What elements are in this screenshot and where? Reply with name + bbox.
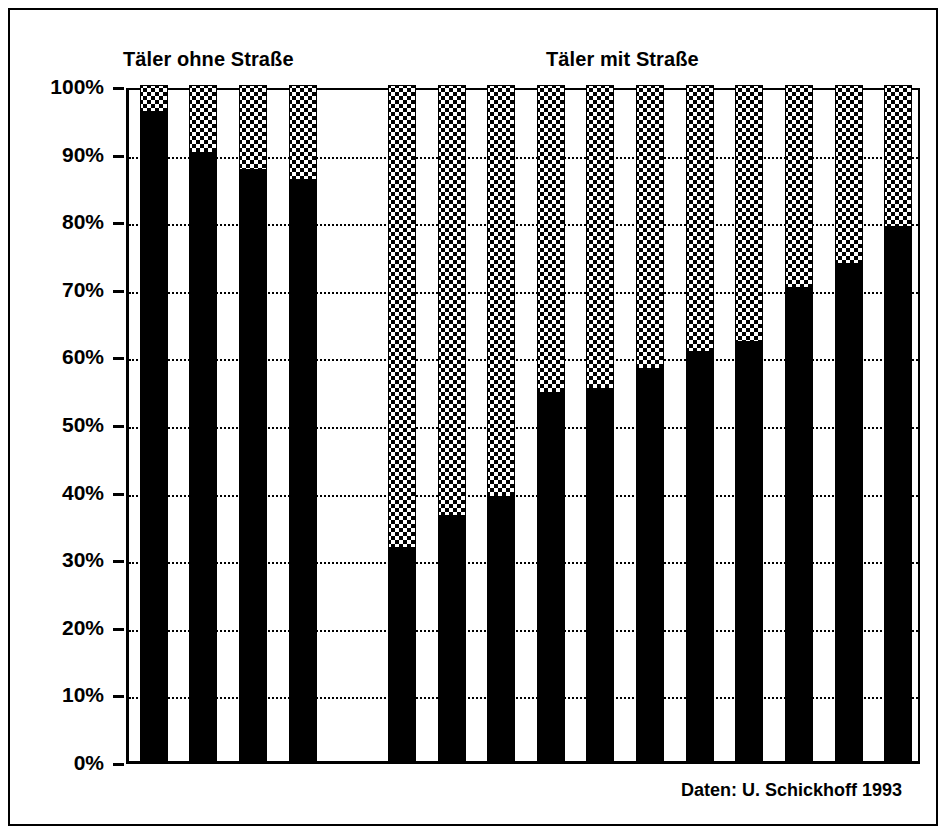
- bar-mit-11: [884, 85, 912, 761]
- y-tick-label-100: 100%: [10, 75, 104, 99]
- y-tick-50: [113, 425, 124, 428]
- y-tick-label-50: 50%: [10, 413, 104, 437]
- bar-mit-4: [537, 85, 565, 761]
- y-tick-0: [113, 763, 124, 766]
- bar-segment-dotted: [289, 85, 317, 180]
- bar-segment-dotted: [239, 85, 267, 170]
- source-note: Daten: U. Schickhoff 1993: [681, 780, 902, 801]
- group-title-mit-strasse: Täler mit Straße: [546, 48, 699, 71]
- y-tick-label-90: 90%: [10, 143, 104, 167]
- y-tick-label-70: 70%: [10, 278, 104, 302]
- y-tick-label-10: 10%: [10, 683, 104, 707]
- plot-inner: [129, 90, 918, 761]
- y-tick-30: [113, 560, 124, 563]
- y-tick-90: [113, 155, 124, 158]
- bar-segment-dotted: [438, 85, 466, 516]
- bar-segment-solid: [189, 153, 217, 761]
- bar-ohne-4: [289, 85, 317, 761]
- group-title-ohne-strasse: Täler ohne Straße: [123, 48, 294, 71]
- y-tick-40: [113, 493, 124, 496]
- bar-mit-6: [636, 85, 664, 761]
- bar-segment-solid: [835, 264, 863, 761]
- bar-segment-solid: [735, 342, 763, 761]
- y-tick-70: [113, 290, 124, 293]
- bar-segment-dotted: [140, 85, 168, 112]
- bar-ohne-3: [239, 85, 267, 761]
- bar-segment-dotted: [487, 85, 515, 497]
- y-tick-label-60: 60%: [10, 345, 104, 369]
- y-tick-10: [113, 695, 124, 698]
- bar-segment-solid: [388, 548, 416, 761]
- bar-segment-dotted: [735, 85, 763, 342]
- bar-mit-7: [686, 85, 714, 761]
- bar-segment-dotted: [835, 85, 863, 264]
- y-tick-label-80: 80%: [10, 210, 104, 234]
- bar-mit-2: [438, 85, 466, 761]
- bar-mit-1: [388, 85, 416, 761]
- bar-mit-3: [487, 85, 515, 761]
- bar-mit-9: [785, 85, 813, 761]
- y-tick-label-30: 30%: [10, 548, 104, 572]
- bar-segment-dotted: [586, 85, 614, 389]
- plot-area: [126, 88, 920, 764]
- bar-segment-solid: [636, 369, 664, 761]
- y-tick-20: [113, 628, 124, 631]
- bar-segment-dotted: [636, 85, 664, 369]
- y-tick-80: [113, 222, 124, 225]
- bar-ohne-2: [189, 85, 217, 761]
- y-tick-label-20: 20%: [10, 616, 104, 640]
- y-tick-label-40: 40%: [10, 481, 104, 505]
- bar-segment-dotted: [884, 85, 912, 227]
- bar-segment-dotted: [537, 85, 565, 393]
- bar-segment-solid: [438, 516, 466, 761]
- bar-segment-solid: [884, 227, 912, 761]
- bar-segment-solid: [686, 352, 714, 761]
- bar-segment-solid: [289, 180, 317, 761]
- bar-mit-8: [735, 85, 763, 761]
- bar-segment-dotted: [785, 85, 813, 288]
- bar-segment-solid: [140, 112, 168, 761]
- bar-segment-solid: [487, 497, 515, 761]
- bar-segment-solid: [785, 288, 813, 761]
- y-tick-60: [113, 357, 124, 360]
- bar-mit-10: [835, 85, 863, 761]
- bar-segment-solid: [537, 393, 565, 761]
- bar-ohne-1: [140, 85, 168, 761]
- bar-segment-dotted: [189, 85, 217, 153]
- bar-segment-solid: [239, 170, 267, 762]
- bar-segment-dotted: [388, 85, 416, 548]
- bar-mit-5: [586, 85, 614, 761]
- y-tick-label-0: 0%: [10, 751, 104, 775]
- bar-segment-solid: [586, 389, 614, 761]
- figure-frame: Täler ohne Straße Täler mit Straße 0%10%…: [8, 8, 938, 826]
- y-tick-100: [113, 87, 124, 90]
- bar-segment-dotted: [686, 85, 714, 352]
